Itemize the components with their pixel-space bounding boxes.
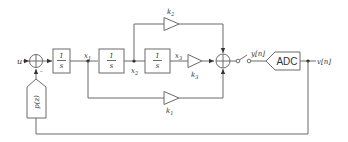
- gain-k1-triangle: [164, 92, 179, 105]
- sampling-switch: [236, 55, 251, 63]
- summing-junction-input: [30, 55, 43, 68]
- minus-sign: −: [40, 68, 43, 74]
- wire-k1-to-sum: [179, 69, 223, 98]
- label-x2: x2: [131, 67, 138, 76]
- adc-label: ADC: [276, 56, 297, 67]
- integrator-block-1: 1 s: [53, 49, 70, 73]
- svg-text:1: 1: [59, 52, 63, 60]
- label-x3: x3: [175, 52, 182, 61]
- gain-k3-triangle: [188, 55, 202, 68]
- block-diagram: u − 1 s x1 1 s x2 1 s x3 k3 k2: [0, 0, 348, 142]
- svg-text:1: 1: [155, 52, 159, 60]
- input-label-u: u: [17, 57, 22, 66]
- label-x1: x1: [84, 52, 91, 61]
- svg-text:s: s: [110, 62, 114, 70]
- wire-k2-to-sum: [179, 24, 223, 53]
- feedback-filter-label: p(z): [33, 95, 41, 109]
- label-k3: k3: [191, 71, 198, 80]
- label-k1: k1: [166, 107, 173, 116]
- gain-k2-triangle: [164, 18, 179, 31]
- svg-text:1: 1: [109, 52, 113, 60]
- integrator-block-2: 1 s: [99, 49, 124, 73]
- label-y-n: y[n]: [250, 50, 265, 58]
- svg-text:s: s: [156, 62, 160, 70]
- integrator-block-3: 1 s: [145, 49, 170, 73]
- svg-text:s: s: [60, 62, 64, 70]
- label-k2: k2: [167, 8, 174, 17]
- summing-junction-output: [216, 54, 230, 68]
- label-v-n: v[n]: [317, 58, 331, 66]
